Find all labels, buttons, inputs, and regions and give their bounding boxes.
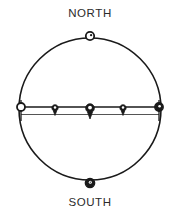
south-pole-marker-core bbox=[90, 182, 91, 183]
band-pin-marker-3-body bbox=[120, 105, 126, 116]
north-label: NORTH bbox=[0, 8, 180, 20]
north-pole-marker-dot bbox=[90, 34, 92, 36]
sphere-illustration bbox=[0, 0, 180, 216]
band-pin-marker-1-body bbox=[52, 105, 58, 116]
band-pin-marker-2 bbox=[86, 104, 95, 119]
band-pin-marker-1-eye bbox=[54, 106, 57, 109]
east-end-marker-highlight bbox=[158, 105, 161, 108]
band-pin-marker-3-eye bbox=[122, 106, 125, 109]
band-pin-marker-2-eye bbox=[88, 106, 92, 110]
west-end-marker bbox=[17, 103, 25, 111]
band-pin-marker-1 bbox=[52, 105, 58, 116]
south-label: SOUTH bbox=[0, 197, 180, 209]
celestial-sphere-diagram: NORTH SOUTH bbox=[0, 0, 180, 216]
band-pin-marker-3 bbox=[120, 105, 126, 116]
north-pole-marker bbox=[86, 32, 94, 40]
